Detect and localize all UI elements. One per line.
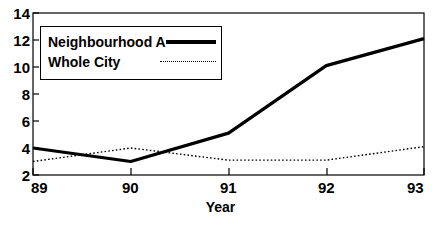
line-chart: 14 12 10 8 6 4 2 89 90 91 92 93 Year Nei… [0,0,441,226]
y-tick-label-14: 14 [4,6,30,21]
x-tick-label-90: 90 [122,180,139,195]
solid-line-swatch-icon [166,36,216,48]
y-tick-label-2: 2 [4,168,30,183]
x-tick-label-92: 92 [318,180,335,195]
x-tick-label-91: 91 [220,180,237,195]
y-tick-label-10: 10 [4,60,30,75]
y-tick-label-8: 8 [4,87,30,102]
y-axis-labels: 14 12 10 8 6 4 2 [0,0,30,226]
x-tick-label-93: 93 [407,180,424,195]
legend-label-neighbourhood-a: Neighbourhood A [48,34,166,50]
x-axis-title: Year [0,199,441,215]
y-tick-label-6: 6 [4,114,30,129]
chart-legend: Neighbourhood A Whole City [40,26,222,80]
y-tick-label-12: 12 [4,33,30,48]
legend-item-neighbourhood-a: Neighbourhood A [48,32,216,52]
legend-label-whole-city: Whole City [48,54,120,70]
dotted-line-swatch-icon [160,56,216,68]
legend-item-whole-city: Whole City [48,52,216,72]
x-tick-label-89: 89 [31,180,48,195]
y-tick-label-4: 4 [4,141,30,156]
